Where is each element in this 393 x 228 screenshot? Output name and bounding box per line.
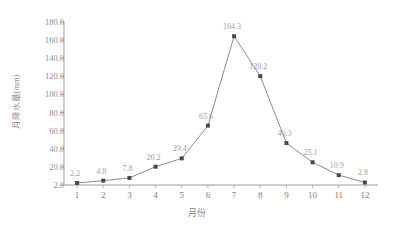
data-point-label: 46.3 bbox=[277, 130, 291, 138]
x-axis-tick-label: 5 bbox=[169, 190, 195, 200]
x-axis-tick-label: 4 bbox=[143, 190, 169, 200]
data-point-marker bbox=[363, 180, 367, 184]
data-point-label: 25.1 bbox=[304, 149, 318, 157]
data-point-marker bbox=[284, 141, 288, 145]
precipitation-line-chart: 月降水量(mm) 2.020.040.060.080.0100.0120.014… bbox=[0, 0, 393, 228]
x-axis-tick-label: 9 bbox=[273, 190, 299, 200]
data-point-label: 120.2 bbox=[249, 63, 267, 71]
data-point-marker bbox=[232, 34, 236, 38]
data-point-label: 164.3 bbox=[223, 23, 241, 31]
data-point-label: 4.8 bbox=[96, 168, 106, 176]
data-point-label: 2.2 bbox=[70, 170, 80, 178]
x-axis-tick-label: 6 bbox=[195, 190, 221, 200]
data-point-label: 20.2 bbox=[147, 154, 161, 162]
data-point-marker bbox=[337, 173, 341, 177]
x-axis-tick-label: 1 bbox=[64, 190, 90, 200]
data-point-label: 65.6 bbox=[199, 113, 213, 121]
data-point-marker bbox=[154, 165, 158, 169]
series-markers bbox=[75, 34, 367, 185]
data-point-marker bbox=[127, 176, 131, 180]
x-axis-tick-label: 7 bbox=[221, 190, 247, 200]
data-point-marker bbox=[206, 124, 210, 128]
data-point-label: 10.9 bbox=[330, 162, 344, 170]
data-point-marker bbox=[75, 181, 79, 185]
x-axis-tick-label: 3 bbox=[116, 190, 142, 200]
data-point-marker bbox=[180, 156, 184, 160]
x-axis-tick-label: 12 bbox=[352, 190, 378, 200]
data-point-label: 7.8 bbox=[122, 165, 132, 173]
x-axis-title: 月份 bbox=[0, 206, 393, 219]
data-point-label: 2.8 bbox=[358, 169, 368, 177]
x-axis-tick-label: 2 bbox=[90, 190, 116, 200]
data-point-marker bbox=[101, 179, 105, 183]
x-axis-tick-label: 8 bbox=[247, 190, 273, 200]
data-point-marker bbox=[311, 160, 315, 164]
series-line bbox=[77, 36, 365, 183]
x-axis-tick-label: 10 bbox=[300, 190, 326, 200]
data-point-marker bbox=[258, 74, 262, 78]
data-point-label: 29.4 bbox=[173, 145, 187, 153]
x-axis-tick-label: 11 bbox=[326, 190, 352, 200]
